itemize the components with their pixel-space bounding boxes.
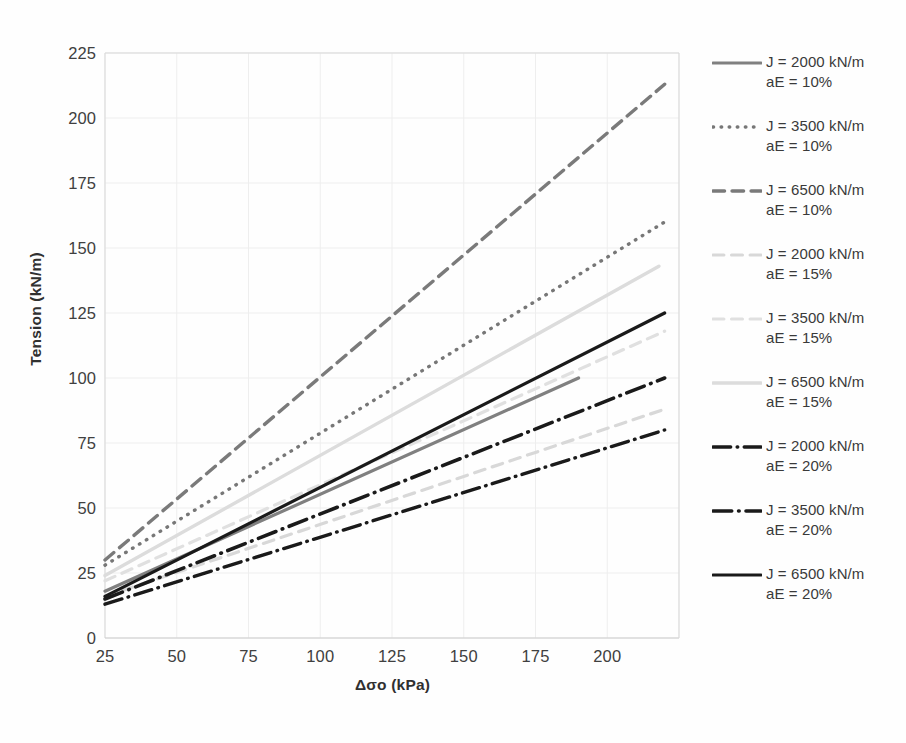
legend-item[interactable]: J = 6500 kN/m aE = 20% [712, 564, 902, 612]
legend-item-label: J = 3500 kN/m aE = 20% [766, 500, 864, 540]
series-line-4 [105, 409, 665, 596]
legend-swatch-line-dashed-faint-icon [712, 245, 762, 265]
x-tick-label: 75 [219, 648, 279, 665]
y-tick-label: 25 [48, 565, 96, 582]
x-tick-label: 100 [290, 648, 350, 665]
legend-item[interactable]: J = 3500 kN/m aE = 15% [712, 308, 902, 356]
legend-swatch-line-dashed-faint-icon [712, 309, 762, 329]
y-tick-label: 200 [48, 110, 96, 127]
legend-swatch-line-dashdot-black-icon [712, 437, 762, 457]
data-series-layer [105, 84, 665, 604]
x-tick-label: 175 [506, 648, 566, 665]
y-tick-label: 75 [48, 435, 96, 452]
x-axis-title: Δσo (kPa) [105, 676, 680, 694]
x-tick-label: 25 [75, 648, 135, 665]
y-tick-label: 125 [48, 305, 96, 322]
legend-swatch-line-solid-gray-icon [712, 53, 762, 73]
legend-item-label: J = 6500 kN/m aE = 15% [766, 372, 864, 412]
legend-item-label: J = 3500 kN/m aE = 15% [766, 308, 864, 348]
legend-swatch-line-solid-faint-icon [712, 373, 762, 393]
x-tick-label: 125 [362, 648, 422, 665]
y-axis-tick-labels: 2252001751501251007550250 [44, 0, 96, 743]
legend-swatch-line-dashdot-black-icon [712, 501, 762, 521]
legend-item[interactable]: J = 3500 kN/m aE = 20% [712, 500, 902, 548]
y-tick-label: 150 [48, 240, 96, 257]
y-tick-label: 0 [48, 630, 96, 647]
legend-item-label: J = 3500 kN/m aE = 10% [766, 116, 864, 156]
y-tick-label: 100 [48, 370, 96, 387]
legend-item-label: J = 6500 kN/m aE = 10% [766, 180, 864, 220]
legend-item[interactable]: J = 2000 kN/m aE = 10% [712, 52, 902, 100]
legend-swatch-line-dashed-gray-icon [712, 181, 762, 201]
legend-item-label: J = 2000 kN/m aE = 20% [766, 436, 864, 476]
legend-swatch-line-solid-black-icon [712, 565, 762, 585]
legend-swatch-line-dotted-gray-icon [712, 117, 762, 137]
y-tick-label: 225 [48, 45, 96, 62]
legend-item-label: J = 2000 kN/m aE = 10% [766, 52, 864, 92]
y-axis-title: Tension (kN/m) [27, 229, 45, 389]
x-tick-label: 150 [434, 648, 494, 665]
legend-item[interactable]: J = 2000 kN/m aE = 15% [712, 244, 902, 292]
chart-legend: J = 2000 kN/m aE = 10%J = 3500 kN/m aE =… [712, 52, 902, 628]
gridlines [105, 53, 679, 638]
legend-item[interactable]: J = 2000 kN/m aE = 20% [712, 436, 902, 484]
legend-item[interactable]: J = 3500 kN/m aE = 10% [712, 116, 902, 164]
legend-item-label: J = 2000 kN/m aE = 15% [766, 244, 864, 284]
y-tick-label: 175 [48, 175, 96, 192]
x-tick-label: 200 [577, 648, 637, 665]
legend-item-label: J = 6500 kN/m aE = 20% [766, 564, 864, 604]
series-line-2 [105, 222, 665, 565]
y-tick-label: 50 [48, 500, 96, 517]
legend-item[interactable]: J = 6500 kN/m aE = 15% [712, 372, 902, 420]
x-tick-label: 50 [147, 648, 207, 665]
legend-item[interactable]: J = 6500 kN/m aE = 10% [712, 180, 902, 228]
chart-figure: 2252001751501251007550250 25507510012515… [0, 0, 906, 743]
series-line-8 [105, 378, 665, 599]
